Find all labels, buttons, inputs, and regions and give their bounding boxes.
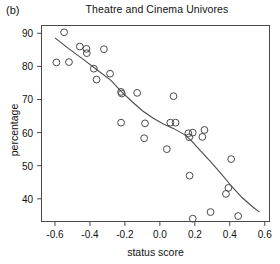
- y-axis-title: percentage: [8, 90, 20, 170]
- y-tick-label: 90: [7, 28, 33, 39]
- y-tick-label: 80: [7, 61, 33, 72]
- chart-figure: (b) Theatre and Cinema Univores 40506070…: [0, 0, 280, 264]
- x-tick-label: 0.6: [245, 229, 280, 240]
- plot-area: [41, 25, 270, 222]
- chart-title-text: Theatre and Cinema Univores: [52, 3, 229, 15]
- chart-title: Theatre and Cinema Univores: [0, 3, 280, 15]
- y-tick-label: 40: [7, 193, 33, 204]
- x-axis-title: status score: [41, 246, 270, 258]
